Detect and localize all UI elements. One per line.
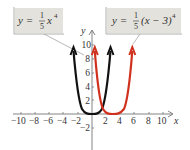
x-axis-label: x	[173, 115, 179, 126]
svg-text:2: 2	[103, 116, 108, 126]
curve-shifted-x4	[92, 47, 136, 114]
svg-text:−6: −6	[43, 116, 53, 126]
svg-text:4: 4	[117, 116, 122, 126]
svg-text:−10: −10	[11, 116, 26, 126]
function-graph: y = 1 5 x 4 y = 1 5 (x − 3) 4 x y	[0, 0, 190, 150]
right-label-exponent: 4	[172, 12, 176, 20]
right-label-expr: (x − 3)	[141, 14, 172, 27]
svg-text:6: 6	[131, 116, 136, 126]
left-label-numerator: 1	[40, 11, 44, 20]
right-label-prefix: y =	[111, 14, 127, 26]
svg-text:−2: −2	[80, 123, 90, 133]
svg-text:2: 2	[85, 96, 90, 106]
left-label-var: x	[46, 14, 52, 26]
right-label-denominator: 5	[134, 22, 138, 31]
left-label-prefix: y =	[17, 14, 33, 26]
right-equation-label: y = 1 5 (x − 3) 4	[106, 7, 182, 44]
svg-text:4: 4	[85, 82, 90, 92]
right-label-numerator: 1	[134, 11, 138, 20]
svg-text:10: 10	[157, 116, 167, 126]
y-axis-label: y	[80, 25, 86, 36]
left-label-denominator: 5	[40, 22, 44, 31]
svg-text:8: 8	[85, 54, 90, 64]
svg-text:−8: −8	[29, 116, 39, 126]
svg-text:8: 8	[146, 116, 151, 126]
svg-text:10: 10	[82, 40, 92, 50]
left-label-exponent: 4	[54, 12, 58, 20]
svg-text:6: 6	[85, 68, 90, 78]
axes: x y −10 −8 −6 −4 −2 2 4 6 8 10	[11, 25, 179, 150]
svg-text:−4: −4	[57, 116, 67, 126]
